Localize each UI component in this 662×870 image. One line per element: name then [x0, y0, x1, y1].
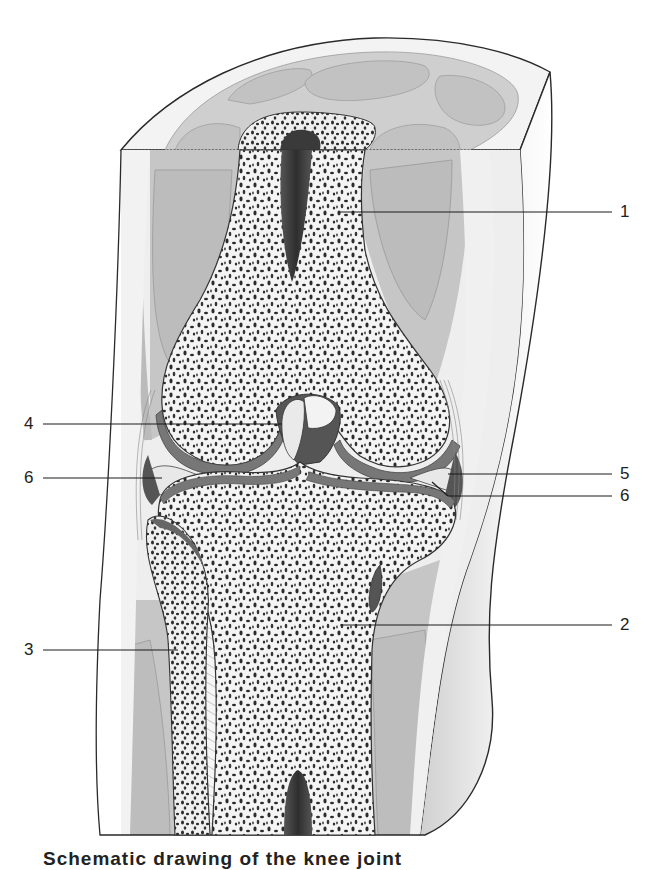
cross-section-cap: [121, 38, 550, 150]
label-3: 3: [24, 641, 33, 658]
label-5: 5: [620, 465, 629, 482]
figure-caption: Schematic drawing of the knee joint: [43, 848, 402, 870]
label-4: 4: [24, 415, 33, 432]
label-6-right: 6: [620, 487, 629, 504]
label-2: 2: [620, 616, 629, 633]
label-6-left: 6: [24, 469, 33, 486]
label-1: 1: [620, 203, 629, 220]
